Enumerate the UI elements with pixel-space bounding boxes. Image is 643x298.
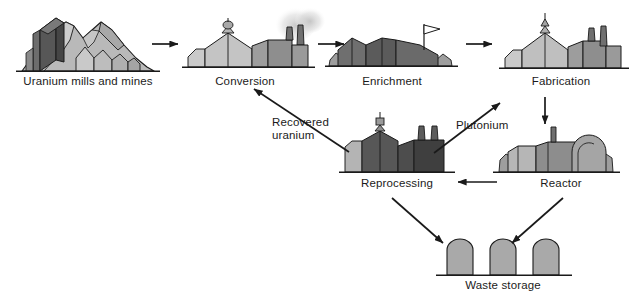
silo [447, 239, 473, 275]
node-waste-storage[interactable] [436, 239, 572, 275]
conversion-plant-icon [182, 7, 325, 67]
flag-icon [424, 25, 440, 34]
edge-label-recovered-uranium-line2: uranium [272, 129, 329, 142]
containment-dome [572, 135, 606, 172]
label-reactor: Reactor [540, 177, 581, 190]
node-reactor[interactable] [493, 127, 620, 172]
arrow-reactor-to-waste [512, 198, 563, 243]
silo [533, 239, 559, 275]
node-conversion[interactable] [182, 7, 325, 67]
label-fabrication: Fabrication [532, 75, 591, 88]
label-enrichment: Enrichment [362, 75, 422, 88]
label-waste-storage: Waste storage [465, 279, 541, 292]
mountain-mine-icon [16, 18, 160, 71]
enrichment-plant-icon [325, 24, 458, 66]
label-reprocessing: Reprocessing [361, 177, 433, 190]
edge-label-recovered-uranium: Recovered uranium [272, 116, 329, 142]
label-conversion: Conversion [215, 75, 275, 88]
edge-label-plutonium: Plutonium [456, 119, 509, 132]
node-reprocessing[interactable] [339, 112, 455, 172]
node-uranium-mills-and-mines[interactable] [16, 18, 160, 71]
nuclear-fuel-cycle-diagram [0, 0, 643, 298]
label-uranium-mills-and-mines: Uranium mills and mines [23, 75, 152, 88]
reactor-icon [493, 127, 620, 172]
reprocessing-plant-icon [339, 112, 455, 172]
node-fabrication[interactable] [499, 13, 629, 68]
arrow-reprocessing-to-waste [392, 198, 443, 243]
waste-silos-icon [436, 239, 572, 275]
fabrication-plant-icon [499, 13, 629, 68]
edge-label-recovered-uranium-line1: Recovered [272, 116, 329, 129]
silo [490, 239, 516, 275]
node-enrichment[interactable] [325, 24, 458, 66]
